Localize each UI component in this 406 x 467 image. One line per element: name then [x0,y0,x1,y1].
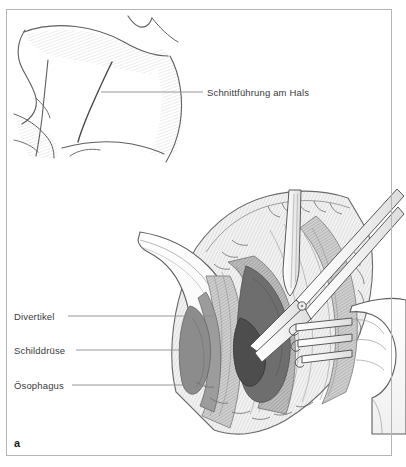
label-schilddruese: Schilddrüse [14,345,65,356]
incision-line [78,62,112,142]
label-oesophagus: Ösophagus [14,380,64,391]
label-divertikel: Divertikel [14,311,55,322]
medical-illustration [0,0,406,467]
upper-illustration-group [14,16,203,162]
lower-illustration-group [68,189,406,434]
figure-plate: Schnittführung am Hals Divertikel Schild… [0,0,406,467]
figure-letter: a [14,437,20,449]
label-schnittfuehrung-am-hals: Schnittführung am Hals [207,87,309,98]
